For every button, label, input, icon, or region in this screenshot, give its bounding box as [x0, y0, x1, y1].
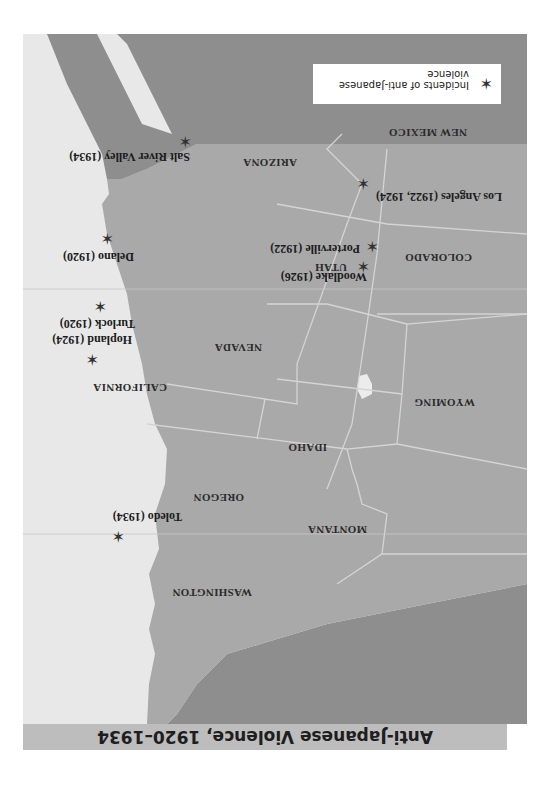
- legend: ✶ Incidents of anti-Japanese violence: [313, 64, 501, 104]
- incident-place: Salt River Valley: [104, 150, 190, 164]
- incident-years: (1922, 1924): [376, 190, 438, 204]
- incident-years: (1934): [113, 510, 145, 524]
- map-canvas: WASHINGTON OREGON CALIFORNIA IDAHO NEVAD…: [23, 34, 527, 724]
- star-icon: ✶: [112, 528, 125, 544]
- incident-years: (1924): [52, 333, 84, 347]
- incident-place: Toledo: [148, 510, 182, 524]
- state-label-washington: WASHINGTON: [172, 587, 252, 599]
- state-label-oregon: OREGON: [193, 492, 244, 504]
- incident-place: Los Angeles: [441, 190, 502, 204]
- incident-years: (1922): [270, 242, 302, 256]
- incident-years: (1920): [63, 250, 95, 264]
- star-icon: ✶: [101, 230, 114, 246]
- incident-place: Porterville: [305, 242, 360, 256]
- state-label-colorado: COLORADO: [405, 252, 472, 264]
- star-icon: ✶: [179, 133, 192, 149]
- incident-years: (1934): [69, 150, 101, 164]
- state-label-idaho: IDAHO: [288, 442, 327, 454]
- incident-years: (1920): [60, 317, 92, 331]
- incident-place: Hopland: [87, 333, 132, 347]
- state-label-arizona: ARIZONA: [243, 157, 297, 169]
- incident-years: (1926): [281, 270, 313, 284]
- state-label-montana: MONTANA: [308, 524, 367, 536]
- star-icon: ✶: [357, 175, 370, 191]
- title-bar: Anti-Japanese Violence, 1920–1934: [23, 724, 507, 750]
- star-icon: ✶: [480, 74, 493, 93]
- state-label-new-mexico: NEW MEXICO: [389, 127, 467, 139]
- map-figure: Anti-Japanese Violence, 1920–1934: [0, 0, 547, 787]
- state-label-nevada: NEVADA: [215, 342, 262, 354]
- star-icon: ✶: [366, 238, 379, 254]
- map-title: Anti-Japanese Violence, 1920–1934: [23, 727, 507, 747]
- incident-place: Woodlake: [316, 270, 367, 284]
- star-icon: ✶: [94, 298, 107, 314]
- incident-place: Delano: [98, 250, 134, 264]
- star-icon: ✶: [86, 351, 99, 367]
- state-label-wyoming: WYOMING: [414, 397, 475, 409]
- state-label-california: CALIFORNIA: [93, 382, 167, 394]
- incident-place: Turlock: [95, 317, 135, 331]
- legend-label: Incidents of anti-Japanese violence: [313, 69, 469, 91]
